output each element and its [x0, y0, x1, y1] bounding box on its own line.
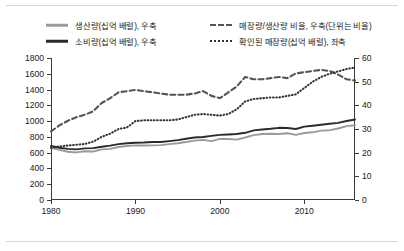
- series-line-rp_ratio: [51, 70, 355, 132]
- x-tick-label: 1980: [41, 206, 60, 216]
- y-right-tick-label: 0: [362, 195, 367, 205]
- y-right-tick-label: 50: [362, 77, 372, 87]
- y-left-tick-label: 1800: [25, 53, 44, 63]
- legend-line-solid-light-icon: [46, 20, 68, 30]
- y-right-tick: [355, 129, 359, 130]
- legend-item-rp-ratio: 매장량/생산량 비율, 우축(단위는 비율): [210, 17, 372, 33]
- y-right-tick-label: 30: [362, 124, 372, 134]
- divider-bottom: [6, 241, 398, 242]
- plot-area: 020040060080010001200140016001800 010203…: [51, 58, 355, 200]
- y-right-tick-label: 40: [362, 100, 372, 110]
- legend-label-production: 생산량(십억 배럴), 우축: [75, 19, 157, 31]
- x-tick: [304, 200, 305, 204]
- legend-item-reserves: 확인된 매장량(십억 배럴), 좌축: [210, 33, 372, 49]
- y-left-tick-label: 600: [30, 148, 44, 158]
- y-right-tick-label: 60: [362, 53, 372, 63]
- y-left-tick-label: 400: [30, 163, 44, 173]
- chart-root: 생산량(십억 배럴), 우축 매장량/생산량 비율, 우축(단위는 비율) 소비…: [0, 0, 404, 251]
- y-right-tick: [355, 200, 359, 201]
- y-left-tick-label: 1600: [25, 69, 44, 79]
- legend-label-rp-ratio: 매장량/생산량 비율, 우축(단위는 비율): [239, 19, 372, 31]
- y-left-tick-label: 1000: [25, 116, 44, 126]
- y-right-tick: [355, 153, 359, 154]
- y-right-tick: [355, 176, 359, 177]
- legend-label-consumption: 소비량(십억 배럴), 우축: [75, 35, 157, 47]
- legend-line-solid-dark-icon: [46, 36, 68, 46]
- y-left-tick-label: 1200: [25, 100, 44, 110]
- y-right-tick-label: 20: [362, 148, 372, 158]
- x-tick-label: 1990: [126, 206, 145, 216]
- y-left-tick-label: 800: [30, 132, 44, 142]
- y-right-tick-label: 10: [362, 171, 372, 181]
- legend-line-dashed-icon: [210, 20, 232, 30]
- divider-top: [6, 5, 398, 6]
- legend-item-production: 생산량(십억 배럴), 우축: [46, 17, 204, 33]
- x-tick: [51, 200, 52, 204]
- legend-line-dotted-icon: [210, 36, 232, 46]
- y-right-tick: [355, 58, 359, 59]
- y-right-tick: [355, 105, 359, 106]
- y-left-tick-label: 0: [39, 195, 44, 205]
- y-left-tick-label: 200: [30, 179, 44, 189]
- series-line-consumption: [51, 120, 355, 150]
- x-tick-label: 2010: [295, 206, 314, 216]
- chart-legend: 생산량(십억 배럴), 우축 매장량/생산량 비율, 우축(단위는 비율) 소비…: [46, 17, 372, 49]
- x-tick: [220, 200, 221, 204]
- x-tick-label: 2000: [210, 206, 229, 216]
- y-left-tick-label: 1400: [25, 85, 44, 95]
- legend-item-consumption: 소비량(십억 배럴), 우축: [46, 33, 204, 49]
- y-right-tick: [355, 82, 359, 83]
- x-tick: [135, 200, 136, 204]
- series-lines: [51, 58, 355, 200]
- legend-label-reserves: 확인된 매장량(십억 배럴), 좌축: [239, 35, 346, 47]
